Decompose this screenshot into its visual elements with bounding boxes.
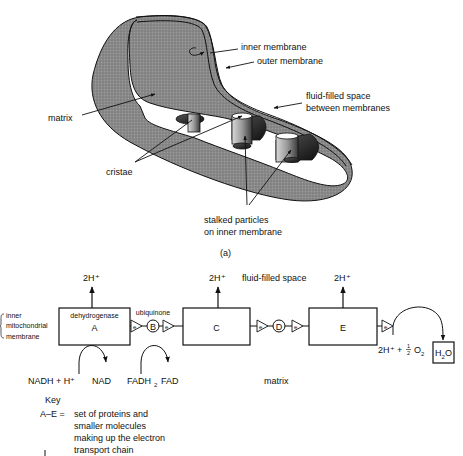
complex-e: E (309, 308, 377, 345)
outer-membrane-arrow (226, 62, 254, 68)
svg-text:O: O (445, 348, 452, 358)
svg-text:E: E (340, 323, 346, 333)
svg-text:C: C (213, 323, 220, 333)
electron-carrier-4: e (292, 320, 303, 332)
label-matrix: matrix (264, 376, 289, 386)
proton-label-c: 2H⁺ (209, 273, 226, 283)
key-line-2: smaller molecules (74, 421, 147, 431)
label-fad: FAD (161, 376, 179, 386)
carrier-b-sub: ubiquinone (136, 309, 170, 317)
mitochondrion-figure: inner membrane outer membrane fluid-fill… (0, 0, 463, 456)
label-stalked-2: on inner membrane (204, 227, 282, 237)
complex-a-sub: dehydrogenase (70, 312, 118, 320)
svg-text:B: B (150, 322, 156, 332)
carrier-d: D (273, 320, 285, 332)
svg-text:2: 2 (421, 351, 425, 357)
label-matrix: matrix (48, 113, 73, 123)
svg-text:D: D (276, 322, 283, 332)
key-line-1: set of proteins and (74, 409, 148, 419)
electron-carrier-5: e (382, 320, 393, 332)
svg-text:2: 2 (407, 350, 410, 356)
caption-a: (a) (220, 248, 231, 258)
key-legend: Key A–E = set of proteins and smaller mo… (40, 395, 165, 456)
side-label-3: membrane (6, 333, 40, 340)
proton-label-a: 2H⁺ (83, 273, 100, 283)
fluid-space-arrow (274, 103, 302, 108)
oxygen-equation: 2H⁺ + 1 2 O 2 (378, 343, 425, 357)
proton-label-e: 2H⁺ (334, 273, 351, 283)
complex-a: dehydrogenase A (59, 308, 130, 345)
membrane-bracket (0, 314, 4, 338)
electron-carrier-2: e (163, 320, 174, 332)
key-line-4: transport chain (74, 445, 134, 455)
key-line-3: making up the electron (74, 433, 165, 443)
fadh2-oxidation-arrow (141, 346, 168, 375)
label-nadh: NADH + H⁺ (28, 376, 75, 386)
label-nad: NAD (92, 376, 112, 386)
label-fadh2: FADH (127, 376, 151, 386)
oxygen-reduction-arrow (393, 307, 443, 340)
label-fadh2-sub: 2 (154, 382, 158, 388)
complex-a-label: A (91, 323, 97, 333)
label-stalked-1: stalked particles (204, 215, 269, 225)
svg-text:2H⁺ +: 2H⁺ + (378, 345, 402, 355)
label-outer-membrane: outer membrane (257, 56, 323, 66)
side-label-1: inner (6, 312, 22, 319)
svg-text:1: 1 (407, 343, 410, 349)
side-label-2: mitochondrial (6, 322, 48, 329)
fluid-space-label: fluid-filled space (242, 273, 307, 283)
label-fluid-space-2: between membranes (306, 103, 391, 113)
label-inner-membrane: inner membrane (241, 42, 307, 52)
electron-transport-chain: inner mitochondrial membrane 2H⁺ 2H⁺ 2H⁺… (0, 273, 454, 456)
svg-text:O: O (414, 345, 421, 355)
key-title: Key (45, 395, 61, 405)
complex-c: C (183, 308, 250, 345)
water-box: H 2 O (433, 342, 454, 363)
label-fluid-space-1: fluid-filled space (306, 91, 371, 101)
key-term: A–E = (40, 409, 65, 419)
electron-carrier-1: e (131, 320, 142, 332)
nadh-oxidation-arrow (79, 346, 106, 375)
label-cristae: cristae (106, 167, 133, 177)
electron-carrier-3: e (257, 320, 268, 332)
